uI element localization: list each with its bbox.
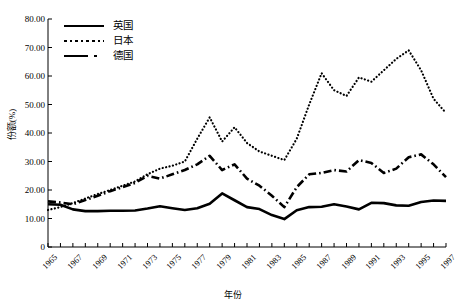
legend-label: 英国 bbox=[113, 20, 133, 31]
line-chart: 份额(%) 010.0020.0030.0040.0050.0060.0070.… bbox=[0, 0, 466, 307]
legend-label: 日本 bbox=[113, 35, 133, 46]
x-axis-title: 年份 bbox=[0, 288, 466, 301]
series-line-0 bbox=[48, 193, 446, 219]
legend: 英国日本德国 bbox=[62, 18, 152, 63]
legend-item-dashdot: 德国 bbox=[62, 48, 152, 63]
legend-key-solid-icon bbox=[62, 20, 106, 32]
legend-key-dotted-icon bbox=[62, 35, 106, 47]
series-line-1 bbox=[48, 50, 446, 210]
legend-key-dashdot-icon bbox=[62, 50, 106, 62]
legend-item-solid: 英国 bbox=[62, 18, 152, 33]
legend-item-dotted: 日本 bbox=[62, 33, 152, 48]
series-line-2 bbox=[48, 154, 446, 207]
legend-label: 德国 bbox=[113, 50, 133, 61]
